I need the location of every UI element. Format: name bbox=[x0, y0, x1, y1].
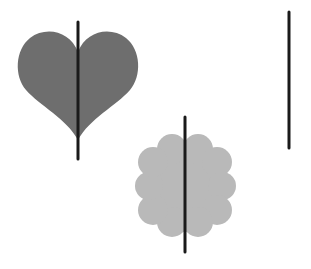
symmetry-figure bbox=[0, 0, 311, 269]
